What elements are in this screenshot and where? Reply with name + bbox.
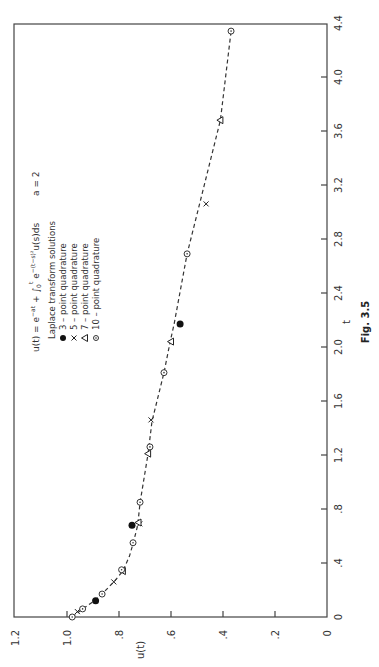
t-tick-label: 1.6 <box>333 393 344 409</box>
x-marker <box>148 417 153 422</box>
circle-dot-center <box>163 372 165 374</box>
x-marker <box>204 201 209 206</box>
t-tick-label: 1.2 <box>333 447 344 463</box>
circle-dot-center <box>121 569 123 571</box>
chart: 0.4.81.21.62.02.42.83.23.64.04.4 0.2.4.6… <box>0 0 379 667</box>
t-axis-ticks: 0.4.81.21.62.02.42.83.23.64.04.4 <box>321 15 344 620</box>
triangle-marker <box>168 338 174 345</box>
equation-exp2: −(t−s)² <box>29 250 36 273</box>
t-tick-label: 0 <box>333 614 344 620</box>
filled-circle-marker <box>177 321 184 328</box>
circle-dot-center <box>132 542 134 544</box>
equation-plus: + ∫ <box>31 288 41 306</box>
t-tick-label: .8 <box>333 504 344 514</box>
legend-item-label: 5 – point quadrature <box>69 243 79 330</box>
u-tick-label: .6 <box>166 630 177 640</box>
legend: u(t) = e−at + ∫0t e−(t−s)²u(s)ds a = 2 L… <box>27 171 101 352</box>
u-tick-label: 0 <box>322 630 333 636</box>
t-tick-label: 2.4 <box>333 285 344 301</box>
t-tick-label: 2.8 <box>333 231 344 247</box>
u-axis-ticks: 0.2.4.6.81.01.2 <box>10 611 333 646</box>
legend-item-label: 3 – point quadrature <box>58 243 68 330</box>
figure-caption: Fig. 3.5 <box>360 301 371 343</box>
filled-circle-marker <box>60 335 66 341</box>
t-tick-label: 4.4 <box>333 15 344 31</box>
x-marker <box>111 579 116 584</box>
legend-title: Laplace transform solutions <box>47 220 57 339</box>
u-tick-label: .8 <box>114 630 125 640</box>
t-axis-label: t <box>341 320 352 324</box>
u-axis-label: u(t) <box>135 641 146 659</box>
t-tick-label: 3.6 <box>333 123 344 139</box>
equation-exp1: −at <box>29 305 36 317</box>
circle-dot-center <box>149 446 151 448</box>
circle-dot-center <box>101 593 103 595</box>
x-marker <box>72 336 77 341</box>
circle-dot-center <box>230 30 232 32</box>
t-tick-label: 2.0 <box>333 339 344 355</box>
u-tick-label: .4 <box>218 630 229 640</box>
equation-limits: 0 <box>35 284 42 288</box>
u-tick-label: .2 <box>270 630 281 640</box>
circle-dot-center <box>139 501 141 503</box>
parameter-text: a = 2 <box>31 171 41 196</box>
equation-text: u(t) = e−at + ∫0t e−(t−s)²u(s)ds <box>27 223 42 352</box>
triangle-marker <box>82 335 88 342</box>
filled-circle-marker <box>92 597 99 604</box>
equation-lhs: u(t) = e <box>31 316 41 352</box>
legend-item-label: 7 – point quadrature <box>80 243 90 330</box>
circle-dot-center <box>71 616 73 618</box>
circle-dot-center <box>82 608 84 610</box>
triangle-marker <box>145 450 151 457</box>
legend-items: 3 – point quadrature5 – point quadrature… <box>58 238 101 342</box>
equation-rest: u(s)ds <box>31 223 41 251</box>
u-tick-label: 1.0 <box>62 630 73 646</box>
circle-dot-center <box>186 253 188 255</box>
t-tick-label: 3.2 <box>333 177 344 193</box>
circle-dot-center <box>95 337 97 339</box>
legend-item-label: 10 – point quadrature <box>91 238 101 330</box>
t-tick-label: 4.0 <box>333 69 344 85</box>
u-tick-label: 1.2 <box>10 630 21 646</box>
t-tick-label: .4 <box>333 558 344 568</box>
